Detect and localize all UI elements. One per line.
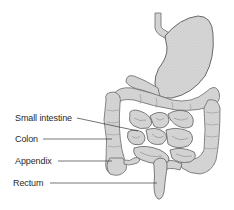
appendix — [124, 157, 140, 165]
label-rectum: Rectum — [13, 178, 43, 188]
label-small-intestine: Small intestine — [15, 113, 72, 123]
rectum — [154, 158, 168, 199]
label-appendix: Appendix — [15, 156, 52, 166]
small-intestine — [127, 110, 195, 164]
label-colon: Colon — [15, 134, 38, 144]
stomach — [155, 16, 213, 98]
